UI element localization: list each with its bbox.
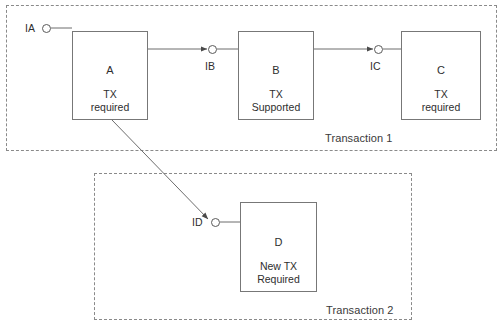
component-c-name: C: [437, 64, 445, 77]
component-d-name: D: [275, 236, 283, 249]
component-box-b[interactable]: B TX Supported: [238, 31, 314, 120]
interface-ic-icon[interactable]: [374, 45, 383, 54]
interface-ic-label: IC: [370, 60, 381, 72]
interface-id-label: ID: [192, 216, 203, 228]
component-box-a[interactable]: A TX required: [72, 31, 148, 120]
component-b-desc: TX Supported: [252, 88, 300, 113]
component-d-desc: New TX Required: [257, 260, 300, 285]
interface-id-icon[interactable]: [211, 218, 220, 227]
component-box-d[interactable]: D New TX Required: [240, 202, 317, 292]
component-c-desc: TX required: [422, 88, 461, 113]
transaction-2-label: Transaction 2: [326, 304, 394, 316]
component-box-c[interactable]: C TX required: [401, 31, 481, 120]
transaction-1-label: Transaction 1: [325, 132, 393, 144]
interface-ib-icon[interactable]: [208, 45, 217, 54]
diagram-canvas: Transaction 1 Transaction 2 A TX require…: [0, 0, 503, 331]
component-a-name: A: [106, 64, 113, 77]
interface-ia-label: IA: [25, 22, 35, 34]
interface-ia-icon[interactable]: [42, 24, 51, 33]
interface-ib-label: IB: [205, 60, 215, 72]
component-a-desc: TX required: [91, 88, 130, 113]
component-b-name: B: [272, 64, 279, 77]
